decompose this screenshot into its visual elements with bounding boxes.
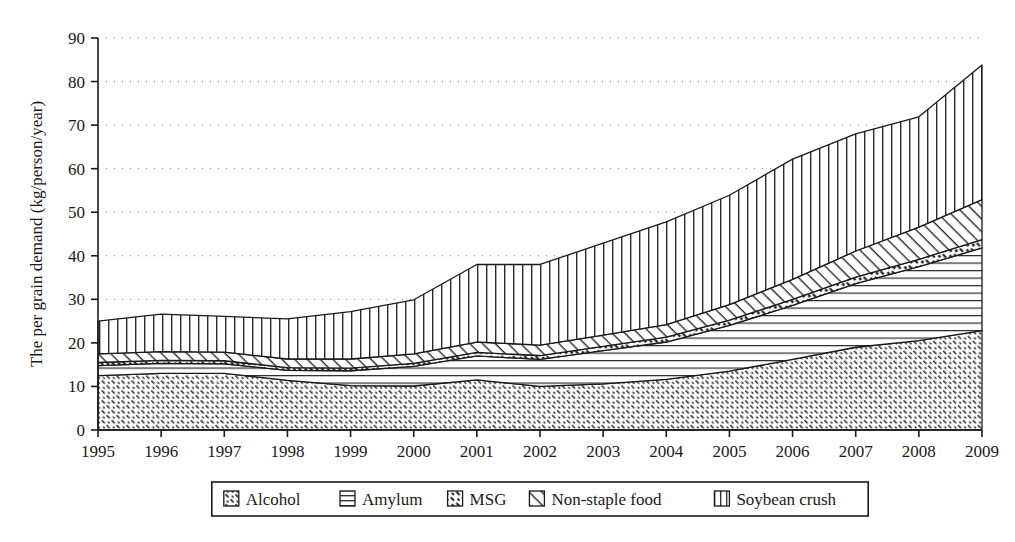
x-tick-label-2001: 2001 (460, 442, 494, 461)
x-tick-label-2000: 2000 (397, 442, 431, 461)
y-tick-label-0: 0 (77, 421, 86, 440)
swatch-dense-diagonal-dots (224, 491, 239, 506)
y-tick-label-90: 90 (68, 29, 85, 48)
y-tick-label-40: 40 (68, 247, 85, 266)
y-tick-label-10: 10 (68, 377, 85, 396)
stacked-area-chart: 0102030405060708090 19951996199719981999… (0, 0, 1015, 542)
y-tick-label-70: 70 (68, 116, 85, 135)
legend-label-alcohol: Alcohol (246, 490, 301, 509)
x-tick-label-2009: 2009 (965, 442, 999, 461)
legend-label-non-staple-food: Non-staple food (551, 490, 662, 509)
y-axis-title: The per grain demand (kg/person/year) (27, 101, 46, 367)
x-tick-labels: 1995199619971998199920002001200220032004… (81, 442, 999, 461)
y-tick-label-80: 80 (68, 73, 85, 92)
x-tick-label-2006: 2006 (776, 442, 810, 461)
x-tick-label-1997: 1997 (207, 442, 242, 461)
swatch-diagonal-hatch (529, 491, 544, 506)
swatch-dotted-band (448, 491, 463, 506)
x-tick-label-2005: 2005 (712, 442, 746, 461)
y-axis-title-text: The per grain demand (kg/person/year) (27, 101, 46, 367)
x-tick-label-1996: 1996 (144, 442, 178, 461)
x-tick-label-2004: 2004 (649, 442, 684, 461)
y-tick-label-20: 20 (68, 334, 85, 353)
x-tick-label-2008: 2008 (902, 442, 936, 461)
legend-label-msg: MSG (470, 490, 507, 509)
swatch-horizontal-lines (340, 491, 355, 506)
y-tick-label-50: 50 (68, 203, 85, 222)
legend-label-amylum: Amylum (362, 490, 422, 509)
y-tick-labels: 0102030405060708090 (68, 29, 85, 440)
legend-label-soybean-crush: Soybean crush (736, 490, 836, 509)
y-tick-label-30: 30 (68, 290, 85, 309)
x-tick-label-2002: 2002 (523, 442, 557, 461)
chart-figure: 0102030405060708090 19951996199719981999… (0, 0, 1015, 542)
area-series-layer (98, 65, 982, 430)
x-tick-label-1995: 1995 (81, 442, 115, 461)
y-tick-label-60: 60 (68, 160, 85, 179)
x-tick-label-1999: 1999 (334, 442, 368, 461)
x-tick-label-1998: 1998 (270, 442, 304, 461)
x-tick-label-2007: 2007 (839, 442, 874, 461)
x-tick-label-2003: 2003 (586, 442, 620, 461)
chart-legend: AlcoholAmylumMSGNon-staple foodSoybean c… (212, 482, 868, 516)
swatch-vertical-lines (714, 491, 729, 506)
